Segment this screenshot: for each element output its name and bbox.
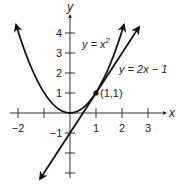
x-axis: −2 1 2 3 x [10, 106, 176, 134]
intersection-label: (1,1) [100, 87, 123, 99]
parabola-equation-exponent: 2 [105, 36, 111, 45]
y-tick-label: −1 [50, 127, 63, 139]
x-tick-label: 3 [145, 122, 151, 134]
y-tick-label: 3 [56, 47, 62, 59]
parabola-equation-text: y = x [81, 38, 106, 50]
x-axis-label: x [168, 106, 176, 120]
x-tick-label: −2 [12, 122, 25, 134]
x-tick-label: 2 [119, 122, 125, 134]
x-tick-label: 1 [93, 122, 99, 134]
y-axis: 4 3 2 1 −1 y [50, 0, 75, 178]
y-tick-label: 2 [56, 67, 62, 79]
y-tick-label: 1 [56, 87, 62, 99]
y-axis-label: y [66, 0, 74, 14]
line-equation-label: y = 2x − 1 [118, 63, 167, 75]
intersection-point [93, 90, 98, 95]
parabola-equation-label: y = x2 [81, 36, 111, 50]
graph: −2 1 2 3 x 4 3 2 1 −1 y (1,1) y = x2 y =… [0, 0, 182, 184]
y-tick-label: 4 [56, 27, 62, 39]
